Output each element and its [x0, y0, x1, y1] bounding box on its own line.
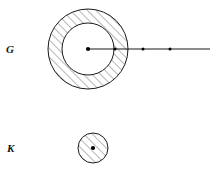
figure-canvas: G K [0, 0, 218, 187]
disk-hatch-fill [0, 0, 218, 187]
center-point-K [91, 146, 95, 150]
geometry-figure: G K [0, 0, 218, 187]
region-label-K: K [6, 142, 15, 154]
region-label-G: G [6, 43, 14, 55]
